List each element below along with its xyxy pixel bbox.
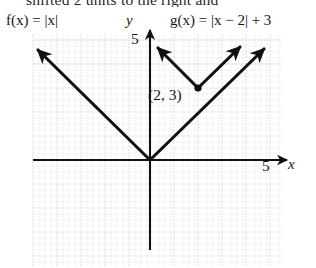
function-label-f-text: f(x) = |x| <box>6 12 58 28</box>
function-label-g: g(x) = |x − 2| + 3 <box>170 12 271 29</box>
y-axis-label: y <box>126 12 133 29</box>
vertex-point-marker <box>194 84 201 91</box>
coordinate-plane-graph <box>0 0 316 268</box>
x-axis-label: x <box>288 156 295 173</box>
x-axis-tick-5: 5 <box>262 157 270 175</box>
curve-f-left-branch <box>38 50 150 160</box>
function-label-f: f(x) = |x| <box>6 12 58 29</box>
graph-figure: shifted 2 units to the right and <box>0 0 316 268</box>
function-label-g-text: g(x) = |x − 2| + 3 <box>170 12 271 28</box>
y-axis-tick-5: 5 <box>131 30 139 48</box>
vertex-coordinate-label: (2, 3) <box>148 86 182 104</box>
